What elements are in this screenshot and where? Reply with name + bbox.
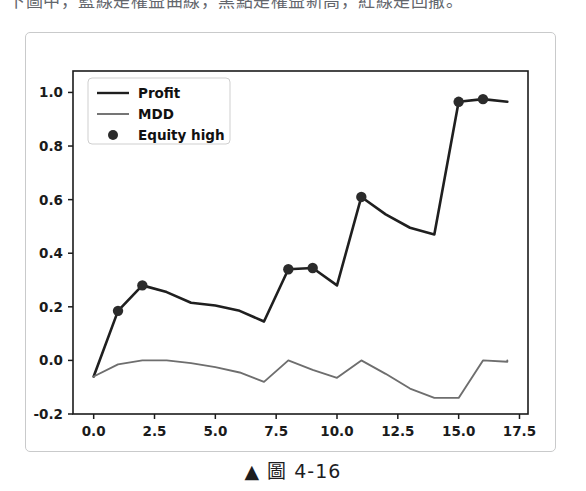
equity-high-marker	[453, 97, 463, 107]
equity-high-marker	[283, 264, 293, 274]
series-line-mdd	[94, 360, 508, 398]
x-tick-label: 0.0	[82, 423, 106, 439]
equity-high-marker	[356, 192, 366, 202]
legend-label: MDD	[138, 106, 174, 122]
legend-label: Profit	[138, 85, 181, 101]
x-axis-ticks: 0.02.55.07.510.012.515.017.5	[82, 414, 536, 439]
equity-high-marker	[307, 263, 317, 273]
y-tick-label: 0.2	[39, 299, 63, 315]
figure-caption: ▲ 圖 4-16	[0, 456, 586, 483]
y-tick-label: 1.0	[39, 84, 63, 100]
x-tick-label: 7.5	[264, 423, 288, 439]
y-tick-label: 0.8	[39, 138, 63, 154]
y-tick-label: 0.6	[39, 192, 63, 208]
x-tick-label: 17.5	[503, 423, 536, 439]
y-tick-label: 0.4	[39, 245, 63, 261]
equity-high-marker	[137, 280, 147, 290]
x-tick-label: 10.0	[320, 423, 353, 439]
x-tick-label: 12.5	[381, 423, 414, 439]
x-tick-label: 15.0	[442, 423, 475, 439]
y-tick-label: -0.2	[33, 406, 63, 422]
legend-swatch-marker	[108, 130, 118, 140]
y-axis-ticks: -0.20.00.20.40.60.81.0	[33, 84, 73, 422]
equity-high-marker	[113, 306, 123, 316]
chart-plot-area: 0.02.55.07.510.012.515.017.5 -0.20.00.20…	[0, 0, 586, 491]
legend-label: Equity high	[138, 127, 225, 143]
chart-legend: ProfitMDDEquity high	[88, 78, 230, 144]
equity-high-marker	[478, 94, 488, 104]
x-tick-label: 5.0	[203, 423, 227, 439]
chart-svg: 0.02.55.07.510.012.515.017.5 -0.20.00.20…	[0, 0, 586, 491]
x-tick-label: 2.5	[143, 423, 167, 439]
y-tick-label: 0.0	[39, 352, 63, 368]
